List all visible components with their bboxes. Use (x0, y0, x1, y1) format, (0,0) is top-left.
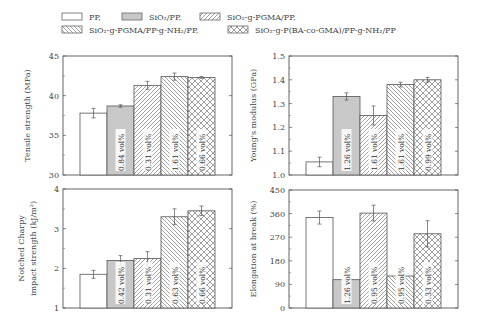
legend-swatch (228, 26, 248, 33)
y-tick-label: 30 (49, 171, 59, 180)
bar-sio2-g-pgma-pp: 0.31 vol% (134, 252, 161, 308)
y-tick-label: 4 (54, 185, 59, 194)
y-axis-label: Tensile strength (MPa) (23, 69, 32, 161)
bar-sio2-pp: 1.26 vol% (333, 93, 360, 175)
legend-item-pgma_nh2: SiO₂-g-PGMA/PP-g-NH₂/PP, (62, 26, 198, 35)
figure: PP,SiO₂/PP,SiO₂-g-PGMA/PP,SiO₂-g-PGMA/PP… (0, 0, 479, 325)
y-axis-label: Elongation at break (%) (249, 201, 258, 298)
bar-sio2-g-pgma-pp-g-nh2-pp: 0.63 vol% (161, 209, 188, 308)
y-tick-label: 1.0 (272, 171, 285, 180)
bar-content-label: 0.31 vol% (144, 134, 153, 171)
legend-swatch (122, 13, 142, 20)
bar-sio2-pp: 1.26 vol% (333, 262, 360, 308)
legend-swatch (62, 26, 82, 33)
y-tick-label: 450 (270, 186, 285, 195)
y-tick-label: 3 (54, 225, 59, 234)
bar-content-label: 1.61 vol% (171, 134, 180, 171)
bar-pp (80, 270, 107, 308)
y-tick-label: 90 (275, 280, 285, 289)
legend-item-pp: PP, (62, 13, 101, 22)
y-tick-label: 1 (54, 304, 59, 313)
bar-content-label: 0.66 vol% (198, 134, 207, 171)
y-tick-label: 180 (270, 257, 285, 266)
bar-pp (306, 211, 333, 308)
y-axis-label: impact strength (kJ/m²) (29, 201, 38, 296)
bar-content-label: 0.31 vol% (144, 267, 153, 304)
bar-sio2-g-pgma-pp-g-nh2-pp: 0.95 vol% (387, 262, 414, 308)
bar-pp (306, 157, 333, 175)
bar-sio2-g-pgma-pp-g-nh2-pp: 1.61 vol% (161, 73, 188, 175)
y-tick-label: 1.1 (272, 147, 285, 156)
bar-content-label: 0.33 vol% (424, 267, 433, 304)
legend-label: SiO₂/PP, (149, 13, 181, 22)
y-axis-label: Young's modulus (GPa) (249, 69, 258, 163)
y-tick-label: 1.3 (272, 100, 285, 109)
bar-content-label: 0.66 vol% (198, 267, 207, 304)
y-tick-label: 0 (280, 304, 285, 313)
legend-swatch (200, 13, 220, 20)
bar-content-label: 0.95 vol% (370, 267, 379, 304)
legend-label: SiO₂-g-P(BA-co-GMA)/PP-g-NH₂/PP (255, 26, 396, 35)
bar-sio2-g-pgma-pp: 0.95 vol% (360, 205, 387, 308)
y-tick-label: 270 (270, 233, 285, 242)
bar-sio2-g-p-ba-co-gma-pp-g-nh2-pp: 0.99 vol% (414, 77, 441, 175)
chart-panel-3: 1234Notched Charpyimpact strength (kJ/m²… (17, 185, 232, 313)
legend-label: SiO₂-g-PGMA/PP-g-NH₂/PP, (89, 26, 198, 35)
bar-sio2-g-pgma-pp: 0.31 vol% (134, 81, 161, 175)
bar-sio2-g-p-ba-co-gma-pp-g-nh2-pp: 0.66 vol% (188, 206, 215, 308)
y-tick-label: 35 (49, 131, 59, 140)
bar-content-label: 0.84 vol% (117, 134, 126, 171)
legend: PP,SiO₂/PP,SiO₂-g-PGMA/PP,SiO₂-g-PGMA/PP… (62, 13, 396, 35)
bar-sio2-g-pgma-pp: 1.61 vol% (360, 106, 387, 175)
y-tick-label: 40 (49, 92, 59, 101)
chart-panel-1: 30354045Tensile strength (MPa)0.84 vol%0… (23, 52, 232, 180)
bar-sio2-pp: 0.42 vol% (107, 256, 134, 308)
bar-content-label: 1.61 vol% (397, 134, 406, 171)
y-tick-label: 1.5 (272, 52, 285, 61)
bar-sio2-g-p-ba-co-gma-pp-g-nh2-pp: 0.33 vol% (414, 221, 441, 308)
bar-sio2-g-pgma-pp-g-nh2-pp: 1.61 vol% (387, 82, 414, 175)
bar-pp (80, 108, 107, 175)
legend-item-sio2: SiO₂/PP, (122, 13, 181, 22)
legend-label: SiO₂-g-PGMA/PP, (227, 13, 295, 22)
bar-content-label: 1.61 vol% (370, 134, 379, 171)
bar-content-label: 0.63 vol% (171, 267, 180, 304)
bar-content-label: 1.26 vol% (343, 267, 352, 304)
bar-sio2-pp: 0.84 vol% (107, 105, 134, 175)
y-axis-label: Notched Charpy (17, 215, 26, 282)
y-tick-label: 360 (270, 210, 285, 219)
chart-panel-2: 1.01.11.21.31.41.5Young's modulus (GPa)1… (249, 52, 458, 180)
y-tick-label: 1.2 (272, 123, 285, 132)
bar-content-label: 0.95 vol% (397, 267, 406, 304)
bar-content-label: 1.26 vol% (343, 134, 352, 171)
legend-item-pgma: SiO₂-g-PGMA/PP, (200, 13, 295, 22)
y-tick-label: 2 (54, 264, 59, 273)
bar-content-label: 0.99 vol% (424, 134, 433, 171)
bar-sio2-g-p-ba-co-gma-pp-g-nh2-pp: 0.66 vol% (188, 77, 215, 175)
chart-panel-4: 090180270360450Elongation at break (%)1.… (249, 186, 458, 313)
legend-item-ba_gma: SiO₂-g-P(BA-co-GMA)/PP-g-NH₂/PP (228, 26, 396, 35)
y-tick-label: 1.4 (272, 76, 285, 85)
legend-swatch (62, 13, 82, 20)
legend-label: PP, (89, 13, 101, 22)
y-tick-label: 45 (49, 52, 59, 61)
bar-content-label: 0.42 vol% (117, 267, 126, 304)
